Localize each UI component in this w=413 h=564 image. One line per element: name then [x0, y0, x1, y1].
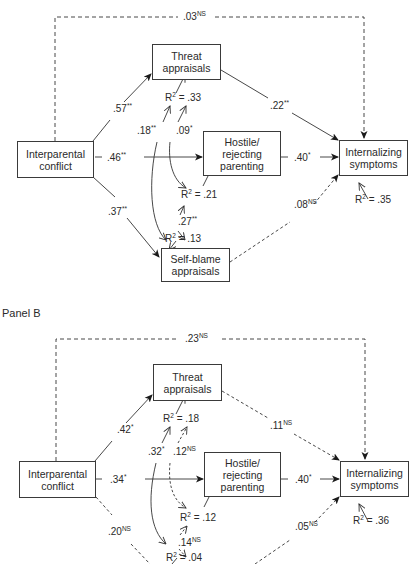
- coef-cov-09-a: .09*: [176, 125, 192, 136]
- node-threat-appraisals-b: Threat appraisals: [153, 364, 222, 401]
- coef-direct-b: .23NS: [185, 333, 208, 344]
- r2-selfblame-a: R2 = .13: [165, 233, 201, 244]
- coef-cov-32-b: .32*: [148, 446, 164, 457]
- node-selfblame-appraisals-a: Self-blame appraisals: [161, 248, 230, 282]
- panel-b-title: Panel B: [2, 307, 41, 319]
- node-label: Interparental conflict: [22, 148, 90, 172]
- node-label: Threat appraisals: [163, 371, 213, 395]
- node-label: Internalizing symptoms: [343, 146, 405, 170]
- r2-hostile-b: R2 = .12: [180, 512, 216, 523]
- coef-direct-a: .03NS: [183, 11, 206, 22]
- coef-hostile-int-b: .40*: [295, 474, 311, 485]
- path-selfblame-int-a: [230, 175, 338, 262]
- path-ipc-selfblame-a: [93, 177, 159, 257]
- node-hostile-parenting-b: Hostile/ rejecting parenting: [204, 452, 281, 497]
- coef-ipc-selfblame-a: .37**: [108, 206, 127, 217]
- coef-threat-int-a: .22**: [270, 100, 289, 111]
- coef-ipc-hostile-a: .46**: [107, 152, 126, 163]
- node-label: Hostile/ rejecting parenting: [213, 136, 271, 172]
- node-label: Interparental conflict: [24, 468, 92, 492]
- coef-cov-14-b: .14NS: [178, 537, 201, 548]
- coef-hostile-int-a: .40*: [294, 152, 310, 163]
- coef-selfblame-int-b: .05NS: [295, 521, 318, 532]
- node-internalizing-symptoms-a: Internalizing symptoms: [339, 140, 408, 176]
- node-label: Internalizing symptoms: [344, 467, 406, 491]
- coef-ipc-threat-b: .42*: [117, 424, 133, 435]
- node-internalizing-symptoms-b: Internalizing symptoms: [340, 461, 409, 497]
- r2-selfblame-b: R2 = .04: [166, 552, 202, 563]
- coef-ipc-hostile-b: .34*: [110, 474, 126, 485]
- r2-hostile-a: R2 = .21: [181, 189, 217, 200]
- node-label: Hostile/ rejecting parenting: [214, 457, 272, 493]
- node-hostile-parenting-a: Hostile/ rejecting parenting: [203, 131, 281, 176]
- coef-cov-18-a: .18**: [137, 125, 156, 136]
- node-threat-appraisals-a: Threat appraisals: [152, 44, 221, 80]
- coef-ipc-threat-a: .57**: [113, 103, 132, 114]
- node-interparental-conflict-a: Interparental conflict: [17, 141, 94, 178]
- r2-internalizing-a: R2 = .35: [355, 194, 391, 205]
- node-label: Threat appraisals: [162, 50, 212, 74]
- coef-selfblame-int-a: .08NS: [294, 199, 317, 210]
- r2-internalizing-b: R2 = .36: [353, 515, 389, 526]
- coef-cov-12-b: .12NS: [173, 446, 196, 457]
- coef-cov-27-a: .27**: [178, 216, 197, 227]
- coef-threat-int-b: .11NS: [270, 420, 292, 431]
- r2-threat-a: R2 = .33: [165, 92, 201, 103]
- node-interparental-conflict-b: Interparental conflict: [19, 461, 96, 498]
- node-label: Self-blame appraisals: [166, 253, 226, 277]
- coef-ipc-selfblame-b: .20NS: [108, 526, 131, 537]
- r2-threat-b: R2 = .18: [163, 413, 199, 424]
